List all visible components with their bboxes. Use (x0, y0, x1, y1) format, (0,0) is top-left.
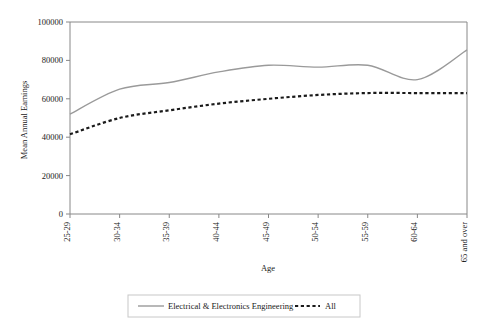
series-line-electrical-electronics-engineering (70, 50, 467, 114)
x-tick-label: 65 and over (459, 222, 469, 262)
chart-container: 020000400006000080000100000 25-2930-3435… (0, 0, 486, 335)
x-axis-ticks (70, 214, 467, 218)
x-tick-label: 40-44 (211, 221, 221, 242)
x-axis-title: Age (261, 263, 275, 273)
x-axis-tick-labels: 25-2930-3435-3940-4445-4950-5455-5960-64… (62, 221, 469, 262)
x-tick-label: 35-39 (161, 222, 171, 242)
x-tick-label: 60-64 (409, 221, 419, 242)
series-line-all (70, 93, 467, 134)
x-tick-label: 30-34 (112, 221, 122, 242)
y-tick-label: 0 (59, 209, 63, 219)
legend-label-all: All (325, 301, 337, 311)
x-tick-label: 45-49 (261, 222, 271, 242)
y-axis-ticks (66, 22, 70, 214)
x-tick-label: 25-29 (62, 222, 72, 242)
legend-label-electrical-electronics-engineering: Electrical & Electronics Engineering (168, 301, 294, 311)
x-tick-label: 50-54 (310, 221, 320, 242)
y-tick-label: 80000 (42, 55, 63, 65)
y-axis-tick-labels: 020000400006000080000100000 (38, 17, 64, 219)
y-tick-label: 20000 (42, 171, 63, 181)
y-tick-label: 60000 (42, 94, 63, 104)
y-tick-label: 40000 (42, 132, 63, 142)
y-axis-title: Mean Annual Earnings (19, 81, 29, 159)
x-tick-label: 55-59 (360, 222, 370, 242)
y-tick-label: 100000 (38, 17, 64, 27)
line-chart: 020000400006000080000100000 25-2930-3435… (0, 0, 486, 335)
chart-legend: Electrical & Electronics Engineering All (128, 295, 360, 317)
plot-axes (70, 22, 467, 214)
series-group (70, 50, 467, 134)
